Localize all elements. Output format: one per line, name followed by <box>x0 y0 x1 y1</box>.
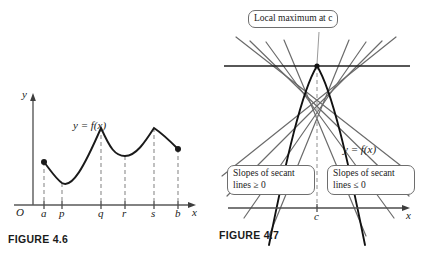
x-axis <box>228 205 410 211</box>
endpoint-dot-b <box>175 146 181 152</box>
endpoint-dot-a <box>41 159 47 165</box>
tick-label-b: b <box>175 207 181 219</box>
x-axis-label: x <box>192 206 197 218</box>
tick-label-p: p <box>59 207 65 219</box>
dashed-guide-lines <box>44 128 178 202</box>
figure-4-6: y x O y = f(x) a p q r s b FIGURE 4.6 <box>0 0 214 258</box>
figure-4-7-graphic <box>214 0 429 258</box>
local-maximum-callout: Local maximum at c <box>248 10 338 28</box>
y-axis-label: y <box>22 88 27 100</box>
figure-4-6-graphic <box>0 0 214 258</box>
y-axis <box>30 93 36 205</box>
vertex-dot-c <box>314 63 319 68</box>
figure-4-7: Local maximum at c Slopes of secant line… <box>214 0 429 258</box>
tick-label-c: c <box>314 210 319 222</box>
tick-label-s: s <box>151 207 155 219</box>
tick-label-a: a <box>41 207 47 219</box>
tick-label-r: r <box>122 207 126 219</box>
origin-label: O <box>16 206 24 218</box>
right-secant-slopes-box: Slopes of secant lines ≤ 0 <box>327 165 415 195</box>
callout-leader-line <box>317 32 319 64</box>
left-secant-slopes-box: Slopes of secant lines ≥ 0 <box>227 165 315 195</box>
function-curve-f <box>44 128 178 184</box>
curve-label-f: y = f(x) <box>73 119 106 131</box>
tick-label-q: q <box>98 207 104 219</box>
figure-4-7-caption: FIGURE 4.7 <box>219 229 279 241</box>
x-axis-label: x <box>406 209 411 221</box>
curve-label-f: y = f(x) <box>343 143 376 155</box>
figure-4-6-caption: FIGURE 4.6 <box>8 233 68 245</box>
